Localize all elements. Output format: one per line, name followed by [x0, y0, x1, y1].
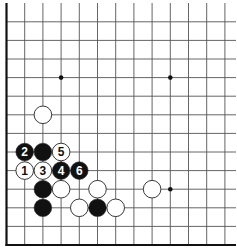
white-stone	[34, 106, 52, 124]
star-point-icon	[59, 75, 64, 80]
stone-circle	[107, 199, 125, 217]
move-number: 6	[76, 164, 83, 178]
go-board: 251346	[0, 0, 237, 251]
black-stone	[34, 143, 52, 161]
white-stone	[143, 180, 161, 198]
stones: 251346	[16, 106, 161, 217]
move-number: 4	[58, 164, 65, 178]
stone-circle	[89, 199, 107, 217]
stone-circle	[34, 180, 52, 198]
black-stone: 4	[52, 162, 70, 180]
black-stone	[34, 180, 52, 198]
white-stone	[52, 180, 70, 198]
black-stone	[89, 199, 107, 217]
white-stone	[107, 199, 125, 217]
star-point-icon	[168, 75, 173, 80]
stone-circle	[89, 180, 107, 198]
black-stone	[34, 199, 52, 217]
stone-circle	[34, 199, 52, 217]
move-number: 1	[21, 164, 28, 178]
move-number: 3	[40, 164, 47, 178]
move-number: 5	[58, 145, 65, 159]
move-number: 2	[21, 145, 28, 159]
stone-circle	[34, 106, 52, 124]
stone-circle	[52, 180, 70, 198]
stone-circle	[71, 199, 89, 217]
white-stone	[89, 180, 107, 198]
black-stone: 6	[71, 162, 89, 180]
white-stone: 3	[34, 162, 52, 180]
white-stone	[71, 199, 89, 217]
star-point-icon	[168, 187, 173, 192]
stone-circle	[143, 180, 161, 198]
black-stone: 2	[16, 143, 34, 161]
white-stone: 5	[52, 143, 70, 161]
white-stone: 1	[16, 162, 34, 180]
stone-circle	[34, 143, 52, 161]
